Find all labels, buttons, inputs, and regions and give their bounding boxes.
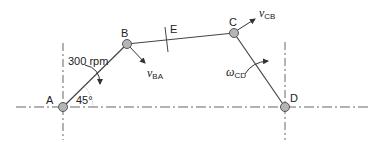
velocity-ba-arrow <box>129 46 145 63</box>
label-e: E <box>170 23 177 35</box>
velocity-ba-label: vBA <box>147 66 164 81</box>
label-d: D <box>290 92 298 104</box>
label-c: C <box>229 16 237 28</box>
label-b: B <box>121 27 128 39</box>
link-bc <box>127 33 234 44</box>
rotation-arrow-ab <box>85 65 100 84</box>
omega-cd-label: ωCD <box>226 65 246 80</box>
rotation-arrow-cd <box>245 61 268 74</box>
joint-b <box>123 40 132 49</box>
joint-a <box>59 103 68 112</box>
velocity-cb-label: vCB <box>259 6 275 21</box>
label-a: A <box>46 94 54 106</box>
joint-d <box>281 103 290 112</box>
four-bar-linkage-diagram: A B C D E 300 rpm 45° vBA vCB ωCD <box>0 0 378 149</box>
angle-label: 45° <box>76 94 93 106</box>
velocity-cb-arrow <box>236 19 255 31</box>
speed-label: 300 rpm <box>68 55 108 67</box>
joint-c <box>230 29 239 38</box>
link-ab <box>63 44 127 107</box>
link-cd <box>234 33 285 107</box>
